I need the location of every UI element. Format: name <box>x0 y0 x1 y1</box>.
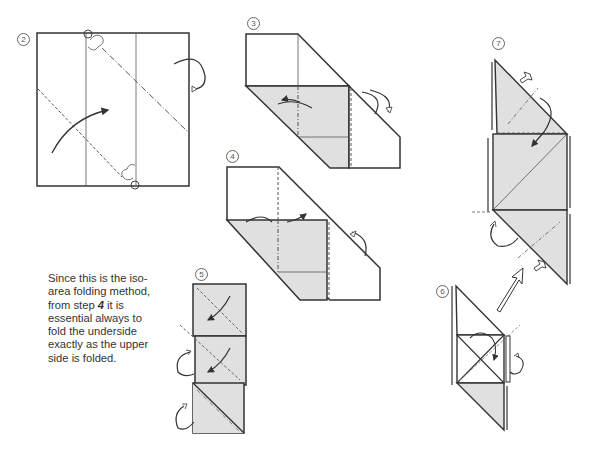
step-number-6: 6 <box>436 285 449 298</box>
note-line-1: Since this is the iso- <box>48 272 178 285</box>
note-line-3-pre: from step <box>48 299 98 311</box>
note-line-6: exactly as the upper <box>48 338 178 351</box>
note-line-4: essential always to <box>48 312 178 325</box>
step-4-diagram <box>227 167 380 300</box>
step-number-4: 4 <box>226 150 239 163</box>
step-6-diagram <box>452 268 523 430</box>
step-5-diagram <box>176 284 246 433</box>
step-2-diagram <box>37 30 205 189</box>
note-line-7: side is folded. <box>48 352 178 365</box>
step-number-2: 2 <box>17 33 30 46</box>
iso-area-note: Since this is the iso- area folding meth… <box>48 272 178 365</box>
step-number-3: 3 <box>247 17 260 30</box>
note-line-3: from step 4 it is <box>48 299 178 312</box>
note-line-5: fold the underside <box>48 325 178 338</box>
note-line-2: area folding method, <box>48 285 178 298</box>
origami-diagram <box>0 0 591 453</box>
note-line-3-post: it is <box>104 299 124 311</box>
step-7-diagram <box>472 60 570 284</box>
step-number-5: 5 <box>195 268 208 281</box>
step-3-diagram <box>246 34 400 168</box>
step-number-7: 7 <box>492 37 505 50</box>
